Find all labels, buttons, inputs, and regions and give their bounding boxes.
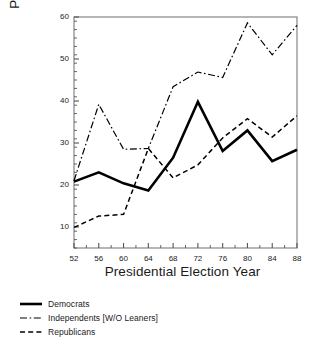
x-tick-label: 52 — [62, 254, 86, 263]
legend-line-swatch — [20, 312, 42, 324]
chart-plot-area — [0, 0, 317, 347]
y-tick-label: 50 — [40, 54, 69, 63]
y-tick-label: 30 — [40, 138, 69, 147]
x-tick-label: 84 — [260, 254, 284, 263]
legend-item[interactable]: Republicans — [20, 325, 260, 338]
y-tick-label: 60 — [40, 12, 69, 21]
series-line-democrats — [74, 102, 297, 191]
y-tick-label: 10 — [40, 222, 69, 231]
x-tick-label: 76 — [211, 254, 235, 263]
legend-label: Independents [W/O Leaners] — [48, 313, 158, 323]
x-tick-label: 60 — [112, 254, 136, 263]
y-tick-label: 20 — [40, 180, 69, 189]
legend-label: Democrats — [48, 299, 90, 309]
chart-figure: Percent Splitting Ticket Presidential El… — [0, 0, 317, 347]
series-line-independents-w-o-leaners — [74, 23, 297, 181]
x-tick-label: 72 — [186, 254, 210, 263]
x-tick-label: 56 — [87, 254, 111, 263]
x-tick-label: 80 — [235, 254, 259, 263]
legend-item[interactable]: Independents [W/O Leaners] — [20, 311, 260, 324]
x-tick-label: 68 — [161, 254, 185, 263]
x-axis-label: Presidential Election Year — [60, 264, 305, 279]
y-tick-label: 40 — [40, 96, 69, 105]
legend-label: Republicans — [48, 327, 95, 337]
legend-line-swatch — [20, 298, 42, 310]
chart-legend: DemocratsIndependents [W/O Leaners]Repub… — [20, 297, 260, 339]
legend-line-swatch — [20, 326, 42, 338]
x-tick-label: 64 — [136, 254, 160, 263]
legend-item[interactable]: Democrats — [20, 297, 260, 310]
x-tick-label: 88 — [285, 254, 309, 263]
y-axis-label: Percent Splitting Ticket — [4, 0, 26, 44]
